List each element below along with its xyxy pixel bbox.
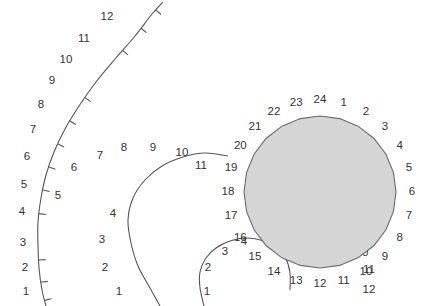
arc-label-4: 4 (110, 207, 117, 219)
tick-mark-6 (49, 167, 56, 169)
arc-label-5: 5 (21, 178, 27, 190)
polygon-label-18: 18 (222, 185, 235, 197)
polygon-label-2: 2 (363, 105, 369, 117)
arc-label-8: 8 (121, 141, 127, 153)
polygon-label-22: 22 (268, 105, 281, 117)
middle-arc-group (128, 153, 228, 306)
arc-label-8: 8 (38, 98, 44, 110)
arc-label-6: 6 (71, 161, 77, 173)
arc-label-2: 2 (22, 261, 28, 273)
polygon-group (244, 116, 396, 268)
arc-label-1: 1 (23, 285, 29, 297)
polygon-label-14: 14 (268, 265, 281, 277)
tick-mark-5 (43, 190, 50, 191)
tick-mark-7 (58, 144, 64, 147)
polygon-label-17: 17 (225, 209, 238, 221)
figure-svg: 1234567891011121234567891011123456789101… (0, 0, 429, 306)
arc-label-11: 11 (78, 32, 90, 44)
tick-mark-9 (85, 98, 91, 102)
tick-mark-12 (156, 10, 161, 15)
arc-label-5: 5 (55, 189, 61, 201)
polygon-label-9: 9 (382, 250, 388, 262)
polygon-label-7: 7 (406, 209, 412, 221)
polygon-label-13: 13 (290, 274, 303, 286)
arc-label-9: 9 (150, 141, 156, 153)
polygon-label-12: 12 (314, 277, 327, 289)
arc-label-12: 12 (101, 10, 114, 22)
arc-label-2: 2 (205, 261, 211, 273)
tick-mark-4 (39, 214, 46, 215)
arc-label-10: 10 (176, 146, 189, 158)
tick-mark-8 (70, 121, 76, 125)
figure-canvas: 1234567891011121234567891011123456789101… (0, 0, 429, 306)
tick-mark-2 (41, 281, 48, 282)
polygon-label-11: 11 (338, 274, 350, 286)
polygon-label-20: 20 (234, 139, 247, 151)
arc-label-1: 1 (116, 285, 122, 297)
polygon-label-3: 3 (382, 120, 388, 132)
tick-mark-10 (123, 50, 128, 55)
polygon-label-6: 6 (409, 185, 415, 197)
arc-label-11: 11 (195, 159, 207, 171)
arc-label-9: 9 (49, 74, 55, 86)
middle-arc-labels: 1234567891011 (55, 141, 207, 297)
arc-label-7: 7 (30, 123, 36, 135)
polygon-label-21: 21 (249, 120, 262, 132)
arc-label-6: 6 (24, 150, 30, 162)
polygon-label-1: 1 (341, 96, 347, 108)
middle-arc-path (128, 153, 228, 306)
polygon-label-16: 16 (234, 231, 247, 243)
polygon-label-15: 15 (249, 250, 262, 262)
polygon-label-23: 23 (290, 96, 303, 108)
arc-label-10: 10 (60, 53, 73, 65)
polygon-label-4: 4 (396, 139, 403, 151)
arc-label-3: 3 (20, 236, 26, 248)
tick-mark-1 (45, 299, 52, 301)
arc-label-3: 3 (222, 245, 228, 257)
polygon-label-24: 24 (314, 93, 327, 105)
arc-label-12: 12 (363, 283, 376, 295)
arc-label-4: 4 (19, 205, 26, 217)
arc-label-2: 2 (102, 261, 108, 273)
arc-label-1: 1 (204, 285, 210, 297)
polygon-label-10: 10 (360, 265, 373, 277)
polygon-label-5: 5 (406, 161, 412, 173)
arc-label-7: 7 (97, 149, 103, 161)
tick-mark-11 (141, 28, 147, 32)
polygon-label-19: 19 (225, 161, 238, 173)
polygon-label-8: 8 (396, 231, 402, 243)
filled-polygon (244, 116, 396, 268)
arc-label-3: 3 (99, 233, 105, 245)
